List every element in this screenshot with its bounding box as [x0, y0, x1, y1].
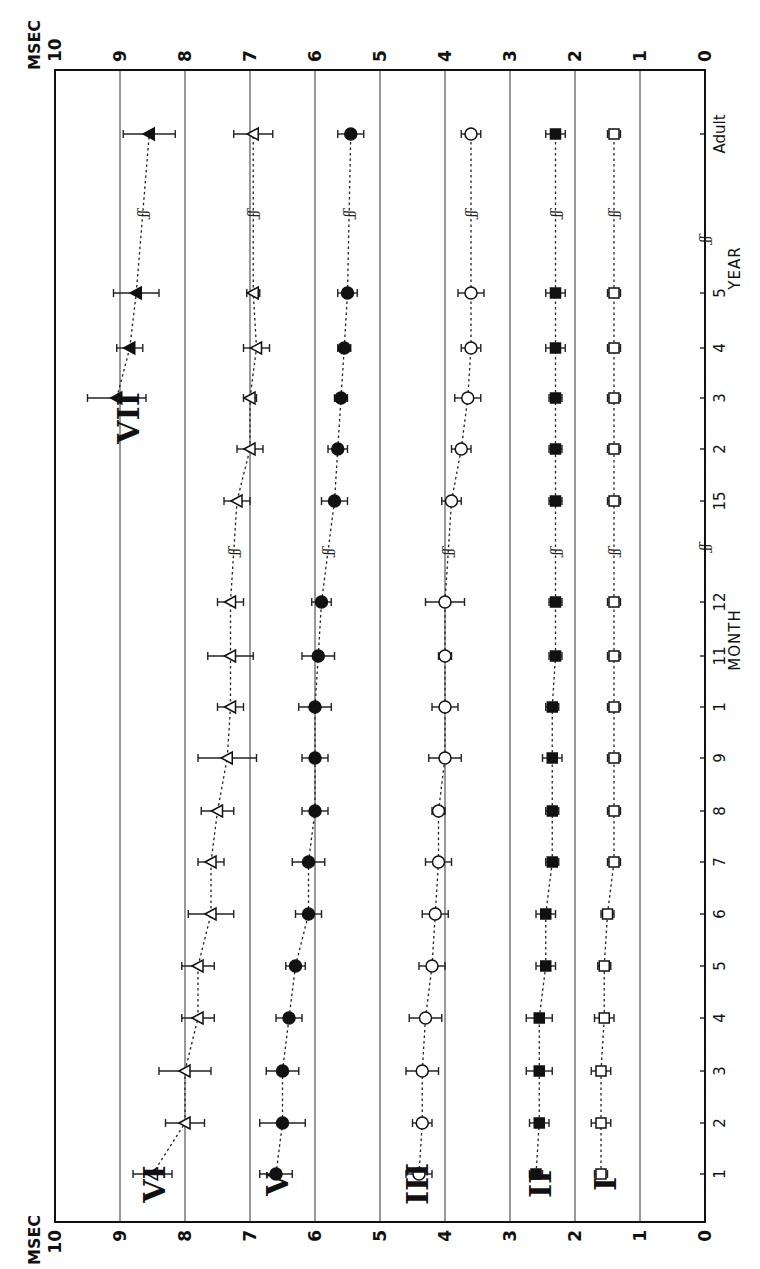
connector-line: [432, 914, 435, 966]
marker-open-circle-icon: [455, 443, 467, 455]
series-label-VII: VII: [111, 392, 146, 444]
series-II: ʃʃʃʃ: [526, 129, 565, 1179]
value-tick-label-top: 3: [500, 50, 520, 62]
connector-line: [546, 862, 553, 914]
marker-open-square-icon: [609, 129, 619, 139]
marker-open-circle-icon: [429, 908, 441, 920]
value-tick-label-top: 1: [630, 50, 650, 62]
connector-line: [341, 348, 344, 398]
marker-open-circle-icon: [439, 596, 451, 608]
marker-open-circle-icon: [416, 1117, 428, 1129]
series-label-V: V: [260, 1172, 295, 1197]
connector-line: [198, 914, 211, 966]
connector-line: [289, 966, 296, 1018]
connector-line: [218, 758, 228, 811]
series-labels: VIIVIVIIIIII: [111, 392, 624, 1205]
marker-filled-square-icon: [551, 444, 561, 454]
marker-filled-circle-icon: [309, 805, 321, 817]
marker-filled-circle-icon: [335, 392, 347, 404]
connector-line: [344, 293, 347, 348]
connector-line: [211, 811, 218, 862]
marker-open-triangle-icon: [231, 495, 242, 507]
connector-line: [250, 348, 257, 398]
age-tick-label: 8: [711, 806, 729, 816]
marker-filled-square-icon: [551, 496, 561, 506]
series-label-III: III: [400, 1163, 435, 1205]
marker-open-square-icon: [599, 961, 609, 971]
marker-filled-square-icon: [551, 651, 561, 661]
value-tick-label-top: 9: [110, 50, 130, 62]
marker-open-triangle-icon: [225, 701, 236, 713]
x-axis-title-month: MONTH: [726, 609, 744, 670]
marker-filled-square-icon: [547, 806, 557, 816]
marker-open-circle-icon: [439, 650, 451, 662]
marker-open-circle-icon: [426, 960, 438, 972]
marker-open-circle-icon: [446, 495, 458, 507]
value-tick-label-bottom: 5: [370, 1230, 390, 1242]
marker-filled-square-icon: [534, 1118, 544, 1128]
age-tick-label: 9: [711, 753, 729, 763]
age-tick-label: 3: [711, 393, 729, 403]
marker-filled-square-icon: [551, 343, 561, 353]
marker-filled-square-icon: [534, 1013, 544, 1023]
value-tick-label-bottom: 8: [175, 1230, 195, 1242]
marker-filled-square-icon: [534, 1066, 544, 1076]
connector-line: [283, 1018, 290, 1071]
connector-line: [117, 348, 130, 398]
marker-open-circle-icon: [439, 701, 451, 713]
marker-open-circle-icon: [465, 287, 477, 299]
age-tick-label: 12: [711, 592, 729, 611]
value-tick-label-bottom: 10: [45, 1230, 65, 1254]
value-tick-label-top: 10: [45, 38, 65, 62]
series-V: ʃʃʃʃ: [260, 128, 364, 1180]
marker-filled-square-icon: [547, 857, 557, 867]
connector-line: [318, 602, 321, 656]
connector-line: [604, 914, 607, 966]
marker-open-circle-icon: [420, 1012, 432, 1024]
value-tick-label-bottom: 7: [240, 1230, 260, 1242]
series-break-mark: ʃʃ: [135, 208, 150, 221]
connector-line: [309, 811, 316, 862]
value-tick-label-top: 2: [565, 50, 585, 62]
value-tick-label-top: 4: [435, 50, 455, 62]
age-tick-label: 6: [711, 909, 729, 919]
marker-open-triangle-icon: [225, 650, 236, 662]
connector-line: [539, 966, 546, 1018]
marker-filled-square-icon: [551, 129, 561, 139]
connector-line: [426, 966, 433, 1018]
marker-filled-square-icon: [547, 702, 557, 712]
marker-open-square-icon: [596, 1066, 606, 1076]
connector-line: [468, 348, 471, 398]
marker-open-circle-icon: [465, 342, 477, 354]
age-tick-label: Adult: [711, 114, 729, 153]
marker-open-square-icon: [609, 343, 619, 353]
age-tick-label: 5: [711, 961, 729, 971]
age-tick-label: 1: [711, 1169, 729, 1179]
marker-filled-square-icon: [551, 597, 561, 607]
series-VII: ʃʃ: [88, 128, 176, 404]
connector-line: [536, 1123, 539, 1174]
value-tick-label-top: 0: [695, 50, 715, 62]
marker-filled-triangle-icon: [124, 342, 135, 354]
connector-line: [253, 293, 256, 348]
marker-open-circle-icon: [462, 392, 474, 404]
value-tick-label-top: 8: [175, 50, 195, 62]
marker-open-triangle-icon: [212, 805, 223, 817]
marker-filled-square-icon: [551, 393, 561, 403]
age-tick-label: 7: [711, 857, 729, 867]
marker-open-square-icon: [609, 702, 619, 712]
marker-open-square-icon: [596, 1118, 606, 1128]
y-axis-title-top: MSEC: [25, 20, 44, 70]
marker-open-square-icon: [599, 1013, 609, 1023]
marker-open-square-icon: [603, 909, 613, 919]
marker-open-circle-icon: [465, 128, 477, 140]
connector-line: [552, 656, 555, 707]
gridlines: [120, 70, 640, 1222]
marker-filled-circle-icon: [277, 1065, 289, 1077]
value-tick-label-bottom: 6: [305, 1230, 325, 1242]
marker-open-square-icon: [609, 496, 619, 506]
marker-open-circle-icon: [439, 752, 451, 764]
marker-open-square-icon: [609, 597, 619, 607]
age-axis: 12345678911112152345Adultʃʃʃʃ: [697, 114, 729, 1178]
marker-open-triangle-icon: [205, 908, 216, 920]
